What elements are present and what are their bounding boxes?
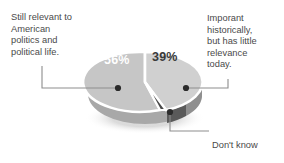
slice-value-label-56: 56% [104, 53, 130, 67]
callout-label-still-relevant: Still relevant to American politics and … [11, 12, 103, 58]
callout-label-important-historically: Imporant historically, but has little re… [207, 13, 281, 71]
leader-dot-right [183, 85, 189, 91]
slice-value-label-39: 39% [152, 50, 178, 64]
dont-know-name: Don't know [212, 140, 282, 152]
callout-label-dont-know: Don't know 5% [212, 128, 282, 163]
leader-dot-dont-know [167, 109, 173, 115]
pie-chart-figure: Still relevant to American politics and … [0, 0, 284, 163]
leader-dot-left [115, 85, 121, 91]
